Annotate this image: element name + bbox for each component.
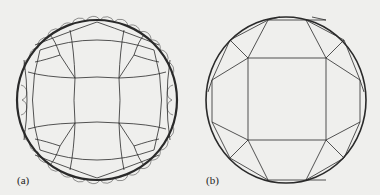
panel-b-label: (b) bbox=[206, 174, 219, 186]
panel-a-poincare-disk bbox=[17, 16, 177, 183]
panel-b-klein-disk bbox=[206, 17, 366, 183]
panel-a-label: (a) bbox=[17, 174, 29, 186]
figure-canvas bbox=[0, 0, 380, 195]
